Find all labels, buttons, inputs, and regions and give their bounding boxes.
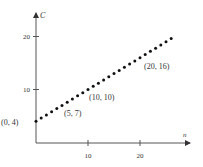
data-point	[149, 50, 152, 53]
data-point	[50, 110, 53, 113]
data-point	[76, 94, 79, 97]
data-point	[102, 78, 105, 81]
data-point	[97, 82, 100, 85]
point-annotation: (10, 10)	[89, 93, 115, 102]
data-point	[61, 104, 64, 107]
data-point	[87, 88, 90, 91]
data-point	[159, 43, 162, 46]
x-axis-label: n	[183, 131, 187, 139]
y-tick-label: 20	[23, 33, 31, 41]
data-point	[45, 113, 48, 116]
point-annotation: (0, 4)	[1, 118, 19, 127]
y-tick-label: 10	[23, 86, 31, 94]
data-point	[71, 98, 74, 101]
data-point	[139, 56, 142, 59]
data-point	[154, 47, 157, 50]
point-annotation: (5, 7)	[64, 109, 82, 118]
data-point	[118, 69, 121, 72]
x-tick-label: 20	[137, 152, 145, 160]
data-point	[40, 117, 43, 120]
data-point	[55, 107, 58, 110]
x-tick-label: 10	[85, 152, 93, 160]
data-points	[35, 37, 173, 123]
annotations: (0, 4)(5, 7)(10, 10)(20, 16)	[1, 62, 170, 128]
data-point	[128, 63, 131, 66]
data-point	[35, 120, 38, 123]
data-point	[107, 75, 110, 78]
data-point	[133, 59, 136, 62]
line-chart: C n 10201020 (0, 4)(5, 7)(10, 10)(20, 16…	[0, 0, 203, 167]
data-point	[81, 91, 84, 94]
data-point	[144, 53, 147, 56]
y-axis-label: C	[40, 11, 46, 20]
data-point	[123, 66, 126, 69]
data-point	[113, 72, 116, 75]
data-point	[66, 101, 69, 104]
data-point	[170, 37, 173, 40]
ticks: 10201020	[23, 33, 144, 160]
point-annotation: (20, 16)	[144, 62, 170, 71]
data-point	[92, 85, 95, 88]
data-point	[165, 40, 168, 43]
